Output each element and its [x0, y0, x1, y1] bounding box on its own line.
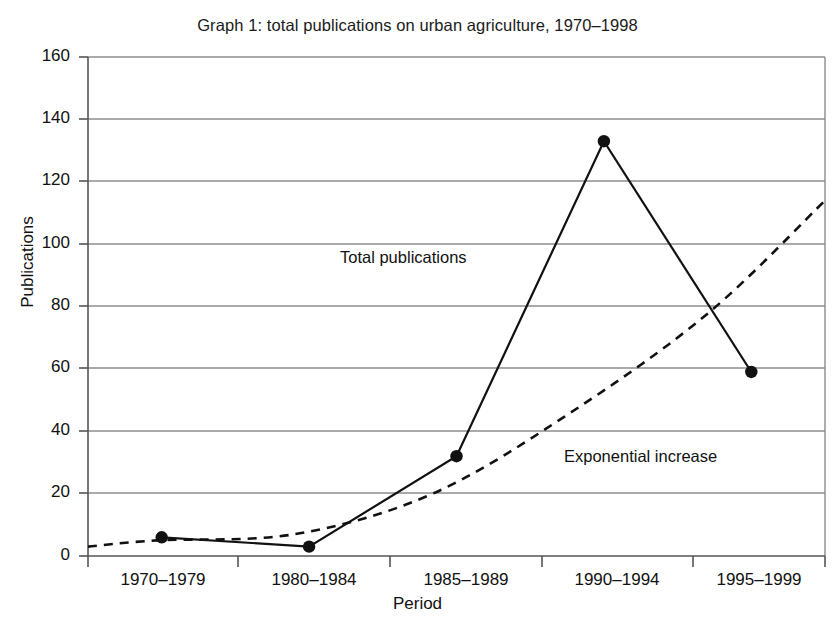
y-axis-ticks: [79, 57, 88, 556]
x-tick-label-1970-1979: 1970–1979: [83, 570, 243, 590]
data-point-marker: [156, 531, 168, 543]
x-tick-label-1995-1999: 1995–1999: [679, 570, 835, 590]
data-point-marker: [303, 540, 315, 552]
y-tick-label-60: 60: [0, 357, 70, 377]
chart-figure: Graph 1: total publications on urban agr…: [0, 0, 835, 631]
y-tick-label-40: 40: [0, 420, 70, 440]
data-point-marker: [745, 366, 757, 378]
y-axis-title: Publications: [18, 172, 38, 352]
gridlines: [88, 57, 825, 493]
x-axis-title: Period: [0, 594, 835, 614]
y-tick-label-0: 0: [0, 545, 70, 565]
data-point-marker: [450, 450, 462, 462]
x-axis-ticks: [88, 556, 825, 567]
y-tick-label-20: 20: [0, 482, 70, 502]
plot-area: [0, 0, 835, 631]
series-annotation-exponential-increase: Exponential increase: [564, 447, 717, 466]
series-annotation-total-publications: Total publications: [340, 248, 467, 267]
x-tick-label-1990-1994: 1990–1994: [537, 570, 697, 590]
y-tick-label-140: 140: [0, 108, 70, 128]
x-tick-label-1980-1984: 1980–1984: [234, 570, 394, 590]
x-tick-label-1985-1989: 1985–1989: [386, 570, 546, 590]
y-tick-label-160: 160: [0, 46, 70, 66]
data-point-marker: [598, 135, 610, 147]
